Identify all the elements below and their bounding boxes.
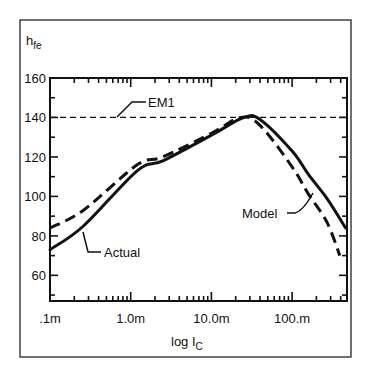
hfe-vs-ic-chart: 6080100120140160 .1m1.0m10.0m100.m EM1 A…	[0, 0, 370, 375]
x-tick-label: 1.0m	[116, 311, 145, 326]
y-axis-title: hfe	[26, 33, 42, 51]
x-tick-label: .1m	[39, 311, 61, 326]
y-tick-label: 140	[24, 110, 46, 125]
y-axis-title-main: h	[26, 33, 33, 48]
y-tick-label: 160	[24, 71, 46, 86]
x-axis-title-main: log I	[171, 334, 196, 349]
x-axis-ticks: .1m1.0m10.0m100.m	[39, 78, 341, 326]
x-axis-title: log IC	[171, 334, 203, 352]
plot-area	[50, 78, 347, 301]
em1-label: EM1	[148, 95, 175, 110]
model-series-line	[50, 117, 340, 256]
y-tick-label: 80	[32, 229, 46, 244]
y-tick-label: 60	[32, 268, 46, 283]
actual-leader-line	[83, 232, 101, 252]
x-axis-title-sub: C	[196, 341, 203, 352]
y-axis-ticks: 6080100120140160	[24, 71, 347, 295]
x-tick-label: 10.0m	[193, 311, 229, 326]
model-label: Model	[242, 206, 278, 221]
outer-frame	[20, 20, 351, 357]
actual-label: Actual	[104, 245, 140, 260]
y-axis-title-sub: fe	[33, 40, 42, 51]
y-tick-label: 100	[24, 189, 46, 204]
x-tick-label: 100.m	[274, 311, 310, 326]
em1-leader-line	[117, 102, 146, 117]
y-tick-label: 120	[24, 150, 46, 165]
